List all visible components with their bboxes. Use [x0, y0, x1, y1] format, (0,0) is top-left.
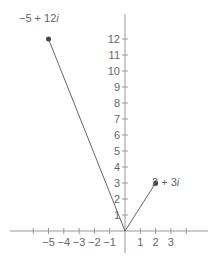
point-label-b: 2 + 3i — [152, 176, 180, 188]
y-tick-label: 4 — [114, 161, 120, 173]
y-tick-label: 11 — [109, 49, 120, 61]
vectors — [46, 37, 158, 232]
y-tick-label: 6 — [114, 129, 120, 141]
axes: −5−4−3−2−1123123456789101112 — [10, 14, 208, 253]
y-tick-label: 2 — [114, 193, 120, 205]
point-label-a: −5 + 12i — [19, 12, 59, 24]
x-tick-label: −5 — [42, 236, 55, 248]
x-tick-label: 1 — [137, 236, 143, 248]
x-tick-label: −1 — [103, 236, 116, 248]
x-tick-label: −3 — [73, 236, 86, 248]
y-tick-label: 8 — [114, 97, 120, 109]
x-tick-label: −2 — [88, 236, 101, 248]
x-tick-label: −4 — [58, 236, 71, 248]
complex-plane-diagram: −5−4−3−2−1123123456789101112 −5 + 12i 2 … — [0, 0, 220, 269]
x-tick-label: 3 — [168, 236, 174, 248]
y-tick-label: 3 — [114, 177, 120, 189]
vector-line — [125, 183, 156, 231]
point-marker — [46, 37, 51, 42]
x-tick-label: 2 — [153, 236, 159, 248]
y-tick-label: 10 — [108, 65, 120, 77]
y-tick-label: 12 — [108, 33, 120, 45]
y-tick-label: 7 — [114, 113, 120, 125]
y-tick-label: 5 — [114, 145, 120, 157]
y-tick-label: 9 — [114, 81, 120, 93]
